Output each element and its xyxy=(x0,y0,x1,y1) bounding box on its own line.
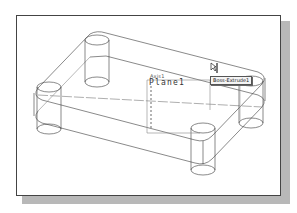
pointer-cursor-icon xyxy=(211,63,217,73)
feature-tooltip: Boss-Extrude1 xyxy=(210,76,252,85)
plane1-label[interactable]: Plane1 xyxy=(149,78,185,87)
boss-cylinder-back xyxy=(85,35,109,87)
wireframe-model[interactable] xyxy=(0,0,297,213)
